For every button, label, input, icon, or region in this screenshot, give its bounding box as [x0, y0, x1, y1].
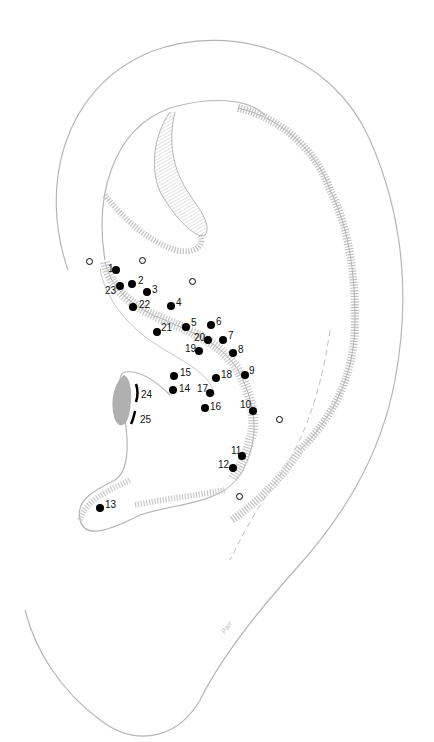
- acupoint-label: 3: [152, 285, 158, 295]
- arc-mark-label: 25: [140, 415, 151, 425]
- acupoint-22: [129, 303, 137, 311]
- arc-mark-label: 24: [141, 390, 152, 400]
- acupoint-label: 14: [179, 384, 190, 394]
- acupoint-15: [170, 372, 178, 380]
- acupoint-20: [204, 336, 212, 344]
- antihelix-lower-line: [230, 330, 330, 560]
- acupoint-9: [241, 371, 249, 379]
- acupoint-label: 8: [238, 345, 244, 355]
- acupoint-23: [116, 282, 124, 290]
- acupoint-3: [143, 288, 151, 296]
- acupoint-16: [201, 404, 209, 412]
- antihelix-line: [238, 108, 355, 450]
- acupoint-label: 22: [139, 300, 150, 310]
- acupoint-13: [96, 504, 104, 512]
- acupoint-label: 13: [105, 500, 116, 510]
- open-point-marker: [276, 416, 283, 423]
- helix-inner-line: [102, 101, 265, 260]
- acupoint-label: 1: [108, 264, 114, 274]
- acupoint-label: 10: [240, 400, 251, 410]
- acupoint-label: 6: [216, 317, 222, 327]
- acupoint-21: [153, 328, 161, 336]
- acupoint-6: [207, 321, 215, 329]
- acupoint-label: 23: [105, 286, 116, 296]
- acupoint-label: 17: [197, 384, 208, 394]
- antihelix-ridge: [232, 108, 355, 520]
- acupoint-5: [182, 323, 190, 331]
- acupoint-14: [169, 386, 177, 394]
- open-point-marker: [139, 257, 146, 264]
- acupoint-7: [219, 336, 227, 344]
- acupoint-12: [229, 464, 237, 472]
- acupoint-label: 4: [176, 298, 182, 308]
- acupoint-2: [128, 280, 136, 288]
- acupoint-4: [167, 302, 175, 310]
- acupoint-label: 20: [194, 333, 205, 343]
- acupoint-8: [229, 349, 237, 357]
- acupoint-label: 7: [228, 331, 234, 341]
- superior-crus: [154, 112, 207, 236]
- ear-diagram: 1234567891011121314151617181920212223242…: [0, 0, 434, 742]
- acupoint-label: 9: [249, 366, 255, 376]
- acupoint-label: 16: [210, 402, 221, 412]
- acupoint-19: [195, 347, 203, 355]
- acupoint-label: 19: [185, 344, 196, 354]
- open-point-marker: [189, 278, 196, 285]
- arc-mark-24: [136, 384, 138, 402]
- helix-outer-line: [25, 40, 403, 736]
- open-point-marker: [86, 258, 93, 265]
- arc-mark-25: [131, 411, 135, 424]
- acupoint-label: 15: [180, 368, 191, 378]
- ear-canal-shade: [112, 375, 131, 425]
- acupoint-label: 12: [218, 460, 229, 470]
- acupoint-label: 21: [161, 323, 172, 333]
- acupoint-label: 5: [191, 318, 197, 328]
- acupoint-18: [212, 374, 220, 382]
- acupoint-label: 2: [138, 276, 144, 286]
- acupoint-label: 18: [221, 370, 232, 380]
- open-point-marker: [236, 493, 243, 500]
- acupoint-label: 11: [231, 446, 241, 456]
- ear-outline-drawing: [0, 0, 434, 742]
